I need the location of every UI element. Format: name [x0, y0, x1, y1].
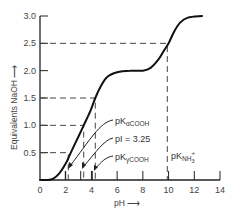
label-pk-alpha-cooh: pKαCOOH: [115, 116, 150, 127]
x-tick-label: 6: [115, 185, 120, 195]
label-pk-gamma-cooh: pKγCOOH: [115, 152, 149, 164]
y-ticks: 0.51.01.52.02.53.0: [23, 11, 48, 158]
y-tick-label: 2.0: [23, 66, 36, 76]
x-tick-label: 14: [215, 185, 225, 195]
titration-chart: 0.51.01.52.02.53.0 02468101214 pKαCOOH p…: [0, 0, 236, 219]
annotation-arrows: [70, 120, 113, 168]
x-ticks: 02468101214: [37, 171, 225, 195]
reference-line: [40, 98, 95, 180]
y-axis-title: Equivalents NaOH ⟶: [9, 65, 19, 150]
y-tick-label: 0.5: [23, 148, 36, 158]
label-pi: pI = 3.25: [115, 134, 150, 144]
x-tick-label: 4: [89, 185, 94, 195]
x-tick-label: 2: [63, 185, 68, 195]
x-tick-label: 8: [140, 185, 145, 195]
y-tick-label: 1.5: [23, 93, 36, 103]
x-tick-label: 0: [37, 185, 42, 195]
x-axis-title: pH ⟶: [114, 198, 140, 208]
y-tick-label: 2.5: [23, 38, 36, 48]
x-tick-label: 12: [189, 185, 199, 195]
y-tick-label: 1.0: [23, 120, 36, 130]
label-pk-nh3: pKNH3+: [171, 150, 195, 164]
y-tick-label: 3.0: [23, 11, 36, 21]
x-tick-label: 10: [164, 185, 174, 195]
arrow-pk-gamma: [96, 156, 113, 168]
